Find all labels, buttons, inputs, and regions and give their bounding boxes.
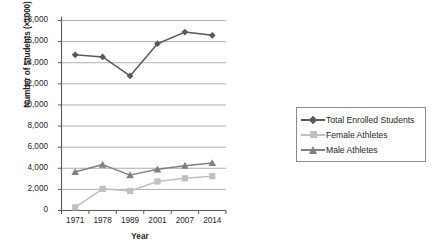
legend-item[interactable]: Female Athletes: [300, 127, 421, 142]
y-axis-tick-label: 16,000: [4, 37, 48, 45]
data-point-marker: [209, 32, 216, 39]
data-point-marker: [182, 175, 188, 181]
data-point-marker: [72, 204, 78, 210]
legend-label: Female Athletes: [326, 130, 388, 140]
y-axis-tick-labels: 18,00016,00014,00012,00010,0008,0006,000…: [0, 0, 48, 251]
y-axis-tick-label: 6,000: [4, 143, 48, 151]
legend-diamond-icon: [300, 113, 326, 126]
chart-container: Number of Students (×1000) 18,00016,0001…: [0, 0, 432, 251]
y-axis-tick-label: 4,000: [4, 164, 48, 172]
y-axis-tick-label: 8,000: [4, 122, 48, 130]
data-point-marker: [209, 173, 215, 179]
y-axis-tick-label: 0: [4, 206, 48, 214]
x-axis-title: Year: [55, 232, 225, 241]
data-point-marker: [72, 51, 79, 58]
legend-item[interactable]: Male Athletes: [300, 142, 421, 157]
y-axis-tick-label: 18,000: [4, 16, 48, 24]
data-point-marker: [154, 178, 160, 184]
y-axis-tick-label: 12,000: [4, 80, 48, 88]
chart-legend: Total Enrolled StudentsFemale AthletesMa…: [296, 107, 426, 162]
series-line: [75, 176, 212, 207]
data-point-marker: [181, 29, 188, 36]
y-axis-tick-label: 14,000: [4, 59, 48, 67]
legend-item[interactable]: Total Enrolled Students: [300, 112, 421, 127]
series-line: [75, 32, 212, 76]
y-axis-tick-label: 10,000: [4, 101, 48, 109]
legend-triangle-icon: [300, 143, 326, 156]
data-point-marker: [100, 186, 106, 192]
series-line: [75, 163, 212, 175]
data-point-marker: [99, 161, 107, 168]
data-point-marker: [127, 188, 133, 194]
legend-label: Male Athletes: [326, 145, 378, 155]
legend-label: Total Enrolled Students: [326, 115, 414, 125]
legend-square-icon: [300, 128, 326, 141]
x-axis-tick-label: 2014: [192, 216, 232, 225]
y-axis-tick-label: 2,000: [4, 185, 48, 193]
